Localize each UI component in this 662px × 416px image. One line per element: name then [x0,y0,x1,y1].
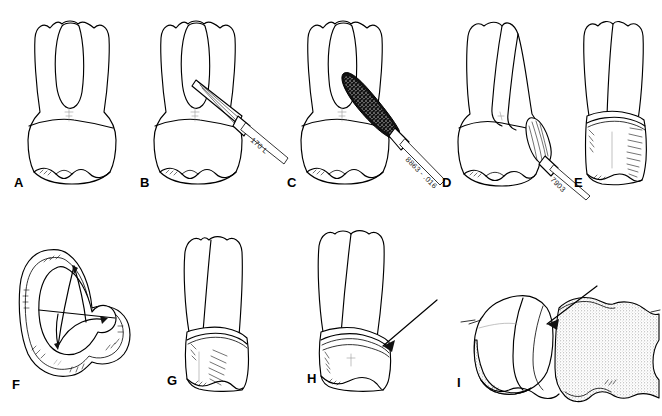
panel-label-g: G [167,374,177,387]
panel-a-drawing [12,8,132,188]
prepared-tooth-g [184,237,248,392]
tooth-outline-b [154,21,242,184]
panel-h-drawing [305,226,445,392]
panel-label-f: F [12,378,20,391]
panel-b-drawing: 170 L [138,8,288,188]
panel-a: A [12,8,132,188]
panel-label-a: A [14,176,23,189]
tooth-outline-d [458,22,542,186]
panel-g-drawing [165,232,285,390]
panel-label-b: B [140,176,149,189]
panel-f: F [10,238,140,388]
panel-h: H [305,226,445,392]
bur-label-b: 170 L [249,136,270,156]
panel-b: 170 L B [138,8,288,188]
tooth-outline-a [28,21,116,184]
panel-c-drawing: 8863 - .016 [285,8,445,198]
panel-label-d: D [442,176,451,189]
panel-e: E [572,8,662,198]
prepared-tooth-i [469,296,559,399]
panel-label-c: C [287,176,296,189]
panel-c: 8863 - .016 C [285,8,445,198]
panel-label-e: E [574,176,583,189]
panel-label-h: H [307,372,316,385]
margin-arrow-h [383,300,437,352]
panel-e-drawing [572,8,662,198]
panel-i: I [455,280,660,416]
adjacent-tooth-i [555,297,659,401]
panel-g: G [165,232,285,390]
panel-d-drawing: 7903 [440,8,590,198]
panel-d: 7903 D [440,8,590,198]
prepared-tooth-h [318,231,390,392]
occlusal-outline-f [19,249,130,376]
prepared-tooth-e [584,22,647,185]
panel-f-drawing [10,238,140,388]
panel-label-i: I [457,376,461,389]
panel-i-drawing [455,280,660,416]
